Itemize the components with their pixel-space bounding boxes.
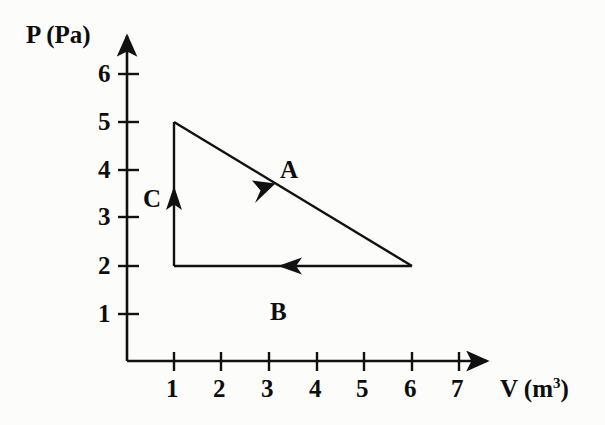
- y-axis-ticks: [118, 74, 139, 314]
- y-axis-title: P (Pa): [26, 22, 91, 47]
- y-tick-label-6: 6: [98, 61, 111, 86]
- x-tick-label-1: 1: [166, 376, 179, 401]
- x-axis-title-prefix: V (m: [500, 375, 553, 402]
- pv-diagram-figure: P (Pa) V (m3) 6 5 4 3 2 1 1 2 3 4 5 6 7 …: [0, 0, 605, 425]
- x-axis-title: V (m3): [500, 376, 569, 401]
- x-axis-title-superscript: 3: [553, 375, 561, 391]
- x-tick-label-6: 6: [404, 376, 417, 401]
- process-label-b: B: [270, 299, 287, 324]
- y-tick-label-3: 3: [98, 204, 111, 229]
- y-tick-label-5: 5: [98, 109, 111, 134]
- y-tick-label-2: 2: [98, 253, 111, 278]
- x-axis-title-suffix: ): [561, 375, 569, 402]
- x-tick-label-2: 2: [213, 376, 226, 401]
- pv-diagram-canvas: [0, 0, 605, 425]
- x-tick-label-5: 5: [356, 376, 369, 401]
- process-label-a: A: [280, 157, 298, 182]
- y-tick-label-4: 4: [98, 157, 111, 182]
- x-tick-label-7: 7: [451, 376, 464, 401]
- process-a-arrowhead: [252, 181, 276, 204]
- x-tick-label-4: 4: [309, 376, 322, 401]
- process-a-line: [174, 122, 412, 266]
- x-tick-label-3: 3: [261, 376, 274, 401]
- process-label-c: C: [143, 186, 161, 211]
- y-tick-label-1: 1: [98, 301, 111, 326]
